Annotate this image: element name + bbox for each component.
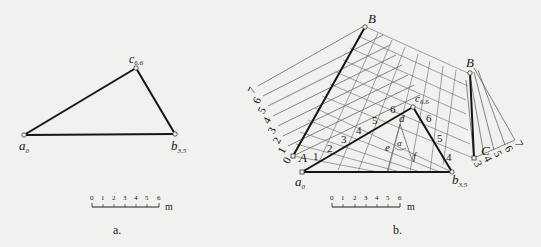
ac-contour-numbers: 1 2 3 4 5 6	[313, 103, 396, 162]
svg-text:6: 6	[157, 194, 161, 202]
svg-text:4: 4	[134, 194, 138, 202]
label-A: A	[298, 150, 307, 165]
label-b35: b3.5	[171, 138, 187, 155]
label-B-top: B	[368, 11, 376, 26]
point-A	[291, 154, 295, 158]
svg-text:2: 2	[112, 194, 116, 202]
figure-canvas: a0 c6.6 b3.5 0 1 2 3 4 5 6 m a.	[0, 0, 541, 247]
svg-text:4: 4	[375, 194, 379, 202]
svg-text:5: 5	[386, 194, 390, 202]
label-a0: a0	[19, 138, 30, 155]
scale-bar-b: 0 1 2 3 4 5 6 m	[330, 194, 415, 212]
svg-text:2: 2	[353, 194, 357, 202]
point-C	[472, 156, 476, 160]
point-a0	[22, 133, 26, 137]
svg-text:5: 5	[145, 194, 149, 202]
svg-text:3: 3	[265, 124, 278, 135]
label-c66: c6.6	[415, 92, 429, 106]
svg-text:2: 2	[327, 142, 333, 154]
scale-bar-a: 0 1 2 3 4 5 6 m	[90, 194, 173, 212]
label-B-right: B	[466, 55, 474, 70]
svg-text:3: 3	[364, 194, 368, 202]
svg-text:0: 0	[90, 194, 94, 202]
label-e: e	[385, 141, 390, 153]
svg-text:6: 6	[390, 103, 396, 115]
point-B-right	[468, 71, 472, 75]
label-a0: a0	[295, 174, 306, 191]
svg-text:4: 4	[356, 124, 362, 136]
label-c66: c6.6	[129, 52, 144, 67]
svg-text:6: 6	[250, 94, 263, 105]
svg-text:4: 4	[260, 114, 273, 125]
svg-text:3: 3	[341, 133, 347, 145]
caption-a: a.	[113, 223, 121, 237]
svg-text:6: 6	[426, 112, 432, 124]
left-scale-lines	[258, 26, 420, 156]
svg-text:6: 6	[398, 194, 402, 202]
svg-text:1: 1	[341, 194, 345, 202]
svg-text:1: 1	[313, 150, 319, 162]
figure-a: a0 c6.6 b3.5 0 1 2 3 4 5 6 m a.	[19, 52, 187, 237]
point-c66	[411, 105, 415, 109]
caption-b: b.	[393, 223, 402, 237]
svg-text:0: 0	[330, 194, 334, 202]
svg-text:5: 5	[372, 114, 378, 126]
left-scale-numbers: 0 1 2 3 4 5 6 7	[245, 84, 293, 165]
triangle-abc	[24, 68, 175, 135]
svg-text:1: 1	[101, 194, 105, 202]
svg-text:1: 1	[275, 145, 288, 155]
svg-text:5: 5	[437, 132, 443, 144]
svg-text:4: 4	[446, 151, 452, 163]
right-scale-numbers: 3 4 5 6 7	[472, 138, 526, 169]
point-B-top	[363, 25, 367, 29]
scale-unit-b: m	[407, 201, 415, 212]
svg-text:7: 7	[245, 84, 258, 95]
label-d: d	[399, 112, 405, 124]
cb-contour-numbers: 6 5 4	[426, 112, 452, 163]
label-b35: b3.5	[452, 172, 468, 189]
figure-b: B B A C a0 c6.6 b3.5 d e f α 0 1 2 3 4 5…	[245, 11, 526, 237]
scale-unit-a: m	[165, 201, 173, 212]
svg-text:5: 5	[255, 104, 268, 115]
svg-text:3: 3	[123, 194, 127, 202]
point-b35	[173, 132, 177, 136]
svg-text:2: 2	[270, 135, 283, 145]
label-alpha: α	[397, 138, 402, 148]
